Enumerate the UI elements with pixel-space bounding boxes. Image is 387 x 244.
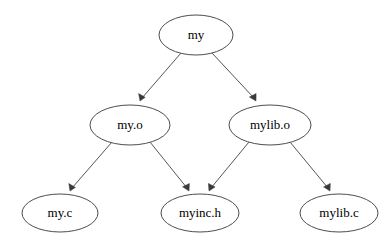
node-my-c[interactable]: my.c (22, 194, 98, 232)
node-myinc-h[interactable]: myinc.h (161, 194, 239, 232)
node-mylib-o[interactable]: mylib.o (229, 105, 311, 145)
edge-my-o-to-my-c (69, 142, 112, 191)
node-label: my (188, 27, 205, 42)
edge-line (142, 53, 181, 98)
node-label: myinc.h (179, 205, 222, 220)
edge-line (212, 53, 254, 98)
node-label: my.c (48, 205, 73, 220)
edge-my-o-to-myinc-h (150, 142, 189, 191)
edge-mylib-o-to-myinc-h (208, 142, 249, 191)
dependency-graph-canvas: my my.o mylib.o my.c myinc.h mylib.c (0, 0, 387, 244)
dependency-graph-svg: my my.o mylib.o my.c myinc.h mylib.c (0, 0, 387, 244)
node-label: my.o (117, 117, 143, 132)
edge-my-to-mylib-o (212, 53, 256, 101)
edge-line (211, 142, 249, 188)
edge-my-to-my-o (139, 53, 181, 101)
node-layer: my my.o mylib.o my.c myinc.h mylib.c (22, 15, 378, 232)
edge-line (150, 142, 187, 188)
node-mylib-c[interactable]: mylib.c (300, 194, 378, 232)
edge-line (72, 142, 112, 188)
node-label: mylib.o (250, 117, 290, 132)
node-my-o[interactable]: my.o (90, 105, 170, 145)
arrowhead-icon (183, 184, 190, 192)
edge-line (290, 142, 328, 188)
edge-mylib-o-to-mylib-c (290, 142, 330, 191)
node-my[interactable]: my (159, 15, 233, 55)
node-label: mylib.c (319, 205, 359, 220)
